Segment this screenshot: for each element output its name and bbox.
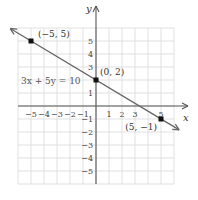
y-tick-label: 1 <box>88 89 93 98</box>
y-tick-label: −4 <box>81 154 93 163</box>
data-point-marker <box>94 78 99 83</box>
x-axis-label: x <box>183 112 189 123</box>
data-point-label: (0, 2) <box>100 67 124 77</box>
y-tick-label: −1 <box>81 115 93 124</box>
equation-label: 3x + 5y = 10 <box>21 76 81 86</box>
y-tick-label: 4 <box>88 50 93 59</box>
x-tick-label: −2 <box>64 110 76 119</box>
x-tick-label: 2 <box>119 110 124 119</box>
y-axis-label: y <box>85 3 92 14</box>
data-point-marker <box>159 117 164 122</box>
data-point-label: (−5, 5) <box>38 29 70 39</box>
x-tick-label: −3 <box>51 110 63 119</box>
y-tick-label: 5 <box>88 37 93 46</box>
y-tick-label: −3 <box>81 141 93 150</box>
y-tick-label: 3 <box>88 63 93 72</box>
data-point-label: (5, −1) <box>125 122 157 132</box>
y-tick-label: −5 <box>81 167 93 176</box>
x-tick-label: 3 <box>132 110 137 119</box>
data-point-marker <box>29 39 34 44</box>
y-tick-label: −2 <box>81 128 93 137</box>
coordinate-plane: −5−4−3−2−112355431−1−2−3−4−5 (−5, 5)(0, … <box>0 0 198 200</box>
x-tick-label: −4 <box>38 110 50 119</box>
x-tick-label: −5 <box>25 110 37 119</box>
x-tick-label: 1 <box>106 110 111 119</box>
